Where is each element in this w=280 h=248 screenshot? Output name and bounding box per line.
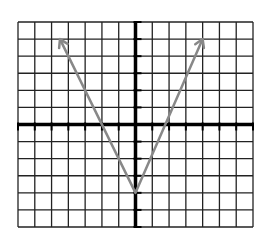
absolute-value-curve	[59, 39, 204, 193]
axes	[18, 22, 253, 227]
coordinate-graph	[0, 0, 280, 248]
